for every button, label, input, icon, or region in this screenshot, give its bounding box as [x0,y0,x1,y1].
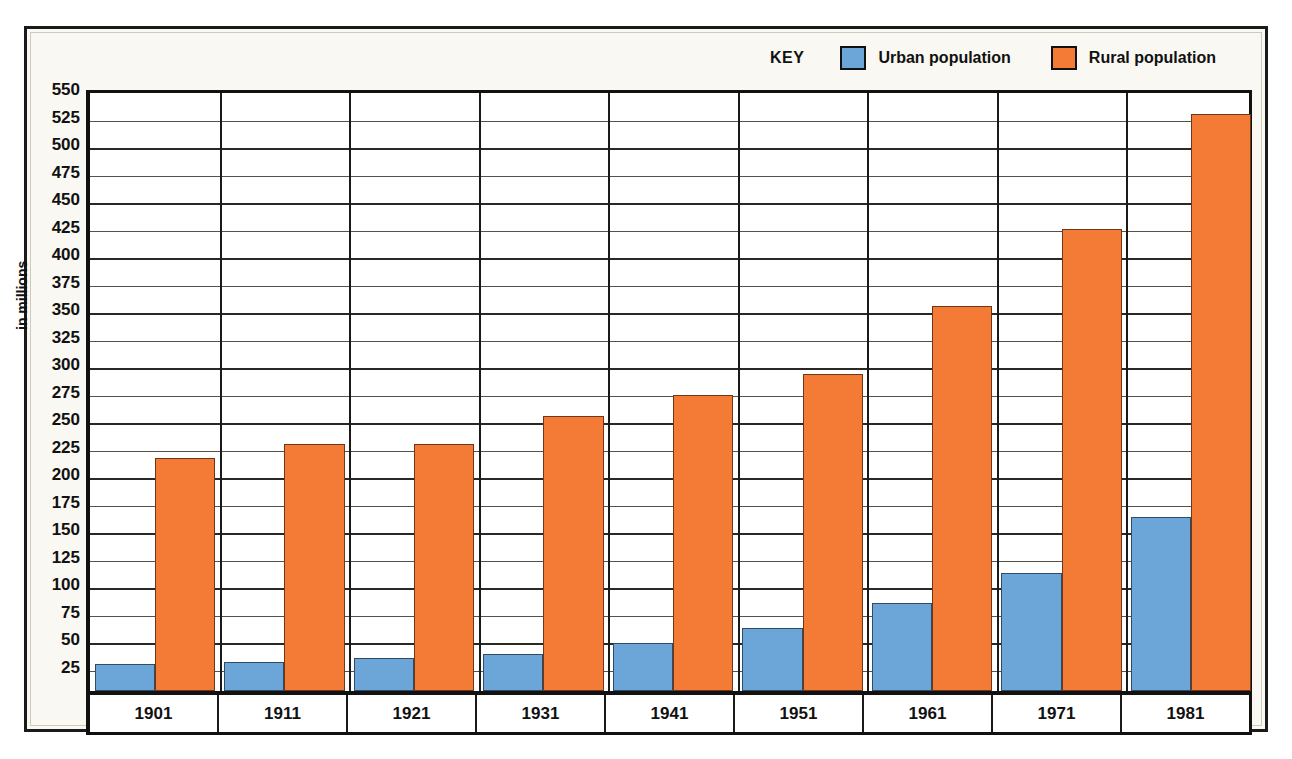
x-tick-label-1971: 1971 [993,695,1122,732]
gridline [90,148,1249,150]
category-separator [220,93,222,691]
bar-rural-1901[interactable] [155,458,215,691]
legend-entry-urban[interactable]: Urban population [840,46,1010,70]
legend-label-urban: Urban population [878,49,1010,67]
gridline [90,176,1249,177]
y-axis-title: in millions [14,261,30,330]
legend-title: KEY [770,49,804,67]
bar-rural-1921[interactable] [414,444,474,692]
bar-urban-1951[interactable] [742,628,802,691]
bar-urban-1901[interactable] [95,664,155,692]
bar-urban-1961[interactable] [872,603,932,691]
bar-urban-1931[interactable] [483,654,543,691]
x-tick-label-1921: 1921 [348,695,477,732]
x-tick-label-1981: 1981 [1122,695,1249,732]
bar-rural-1941[interactable] [673,395,733,691]
legend-entry-rural[interactable]: Rural population [1051,46,1216,70]
x-tick-label-1931: 1931 [477,695,606,732]
bar-urban-1981[interactable] [1131,517,1191,691]
bar-urban-1971[interactable] [1001,573,1061,691]
bar-urban-1921[interactable] [354,658,414,691]
legend-swatch-rural-icon [1051,46,1077,70]
x-tick-label-1951: 1951 [735,695,864,732]
gridline [90,121,1249,122]
x-tick-label-1941: 1941 [606,695,735,732]
plot-area [86,90,1252,695]
x-axis-labels: 190119111921193119411951196119711981 [86,695,1252,735]
x-tick-label-1961: 1961 [864,695,993,732]
x-tick-label-1911: 1911 [219,695,348,732]
category-separator [479,93,481,691]
chart-legend: KEY Urban population Rural population [770,44,1242,72]
category-separator [997,93,999,691]
bar-rural-1981[interactable] [1191,114,1251,692]
bar-rural-1931[interactable] [543,416,603,691]
bar-rural-1961[interactable] [932,306,992,691]
category-separator [608,93,610,691]
bar-rural-1971[interactable] [1062,229,1122,691]
legend-label-rural: Rural population [1089,49,1216,67]
category-separator [1126,93,1128,691]
category-separator [738,93,740,691]
bar-rural-1951[interactable] [803,374,863,691]
legend-swatch-urban-icon [840,46,866,70]
bar-rural-1911[interactable] [284,444,344,692]
category-separator [867,93,869,691]
bar-urban-1941[interactable] [613,643,673,691]
population-bar-chart: KEY Urban population Rural population in… [0,0,1292,759]
gridline [90,203,1249,205]
category-separator [349,93,351,691]
bar-urban-1911[interactable] [224,662,284,691]
x-tick-label-1901: 1901 [90,695,219,732]
